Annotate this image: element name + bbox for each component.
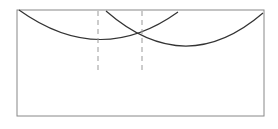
frame-rectangle (17, 10, 264, 116)
diagram-canvas (0, 0, 278, 129)
